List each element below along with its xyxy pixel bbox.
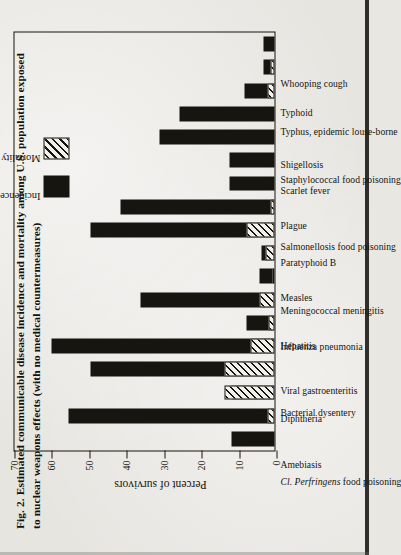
bar-stack bbox=[15, 408, 275, 423]
y-axis-tick bbox=[52, 451, 53, 459]
bar-stack bbox=[15, 60, 275, 75]
legend-swatch-incidence bbox=[44, 176, 70, 198]
category-label: Scarlet fever bbox=[281, 185, 330, 196]
y-axis-tick-label: 40 bbox=[121, 461, 132, 485]
category-label: Amebiasis bbox=[281, 459, 322, 470]
bar-group: Bacterial dysentery bbox=[15, 358, 275, 381]
y-axis-tick bbox=[202, 451, 203, 459]
bar-stack bbox=[15, 37, 275, 52]
bar-group: Measles bbox=[15, 265, 275, 288]
bar-stack bbox=[15, 246, 275, 261]
category-label: Staphylococcal food poisoning bbox=[281, 174, 401, 185]
bar-incidence bbox=[52, 339, 275, 354]
bar-stack bbox=[15, 315, 275, 330]
bar-stack bbox=[15, 199, 275, 214]
bar-mortality bbox=[267, 83, 274, 98]
y-axis-tick-label: 60 bbox=[46, 461, 57, 485]
bar-group: Cl. Perfringens food poisoning bbox=[15, 404, 275, 427]
legend-item-mortality: Mortality bbox=[44, 138, 70, 160]
category-label: Shigellosis bbox=[281, 158, 324, 169]
bar-incidence bbox=[230, 153, 275, 168]
category-label: Influenza pneumonia bbox=[281, 341, 363, 352]
y-axis-tick-label: 50 bbox=[84, 461, 95, 485]
bar-mortality bbox=[267, 408, 274, 423]
bar-group: Amebiasis bbox=[15, 427, 275, 450]
category-label: Paratyphoid B bbox=[281, 258, 337, 269]
bar-mortality bbox=[224, 362, 274, 377]
category-label: Bacterial dysentery bbox=[281, 407, 356, 418]
bar-group: Whooping cough bbox=[15, 33, 275, 56]
y-axis-tick-label: 70 bbox=[9, 461, 20, 485]
bar-stack bbox=[15, 223, 275, 238]
category-label: Meningococcal meningitis bbox=[281, 305, 384, 316]
y-axis-tick bbox=[277, 451, 278, 459]
bar-group: Influenza pneumonia bbox=[15, 288, 275, 311]
bar-stack bbox=[15, 339, 275, 354]
bar-stack bbox=[15, 269, 275, 284]
bar-mortality bbox=[273, 269, 275, 284]
bar-group: Paratyphoid B bbox=[15, 218, 275, 241]
bar-stack bbox=[15, 431, 275, 446]
bar-incidence bbox=[232, 431, 275, 446]
bar-mortality bbox=[269, 315, 275, 330]
y-axis-tick-label: 20 bbox=[196, 461, 207, 485]
legend: Incidence Mortality bbox=[44, 78, 134, 198]
bar-group: Meningococcal meningitis bbox=[15, 242, 275, 265]
bar-incidence bbox=[159, 130, 274, 145]
bar-mortality bbox=[247, 223, 275, 238]
bar-stack bbox=[15, 292, 275, 307]
y-axis-tick bbox=[15, 451, 16, 459]
chart-rotated-container: AmebiasisCl. Perfringens food poisoningD… bbox=[0, 1, 370, 498]
category-label: Whooping cough bbox=[281, 78, 348, 89]
bar-stack bbox=[15, 362, 275, 377]
category-label: Typhoid bbox=[281, 107, 313, 118]
y-axis-tick-label: 0 bbox=[271, 461, 282, 485]
legend-item-incidence: Incidence bbox=[44, 176, 70, 198]
y-axis-tick-label: 30 bbox=[159, 461, 170, 485]
y-axis-tick bbox=[239, 451, 240, 459]
bar-incidence bbox=[180, 106, 275, 121]
legend-label-incidence: Incidence bbox=[0, 191, 40, 202]
y-axis-tick-label: 10 bbox=[234, 461, 245, 485]
category-label: Plague bbox=[281, 220, 307, 231]
bar-incidence bbox=[120, 199, 274, 214]
category-label: Measles bbox=[281, 292, 313, 303]
bar-group: Viral gastroenteritis bbox=[15, 334, 275, 357]
bar-incidence bbox=[230, 176, 275, 191]
y-axis-tick bbox=[164, 451, 165, 459]
bar-mortality bbox=[260, 292, 275, 307]
bar-mortality bbox=[224, 385, 274, 400]
bar-group: Hepatitis bbox=[15, 311, 275, 334]
bar-stack bbox=[15, 385, 275, 400]
category-label: Typhus, epidemic louse-borne bbox=[281, 126, 398, 137]
bar-mortality bbox=[271, 199, 275, 214]
category-label: Salmonellosis food poisoning bbox=[281, 241, 396, 252]
bar-chart: AmebiasisCl. Perfringens food poisoningD… bbox=[0, 1, 370, 498]
bar-incidence bbox=[68, 408, 274, 423]
category-label: Cl. Perfringens food poisoning bbox=[281, 476, 401, 487]
bar-mortality bbox=[271, 60, 275, 75]
bar-group: Plague bbox=[15, 195, 275, 218]
bar-group: Typhus, epidemic louse-borne bbox=[15, 56, 275, 79]
legend-swatch-mortality bbox=[44, 138, 70, 160]
y-axis-tick bbox=[89, 451, 90, 459]
category-label: Viral gastroenteritis bbox=[281, 384, 358, 395]
y-axis-tick bbox=[127, 451, 128, 459]
bar-incidence bbox=[263, 37, 274, 52]
bar-incidence bbox=[141, 292, 275, 307]
bar-mortality bbox=[250, 339, 274, 354]
bar-group: Diphtheria bbox=[15, 381, 275, 404]
bar-mortality bbox=[265, 246, 274, 261]
legend-label-mortality: Mortality bbox=[1, 153, 40, 164]
